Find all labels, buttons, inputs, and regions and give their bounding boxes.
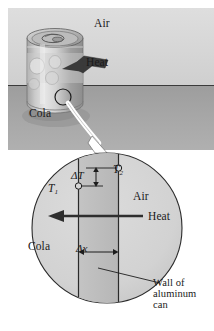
label-delta-t: ΔT [71,170,84,182]
label-delta-x: Δx [76,243,88,255]
label-t1: T1 [48,182,58,196]
label-t2: T2 [113,163,123,177]
label-t1-subscript: 1 [55,188,59,196]
label-cola-detail: Cola [28,240,50,252]
label-cola-top: Cola [29,107,51,119]
label-wall-line-3: can [153,299,196,310]
label-wall-line-1: Wall of [153,277,196,288]
can-label-mark-4 [29,79,40,90]
t1-point-marker [75,183,81,189]
physics-figure: Air Heat Cola T2 ΔT T1 Air Heat Cola Δx … [0,0,214,331]
label-heat-detail: Heat [148,210,170,222]
label-wall-line-2: aluminum [153,288,196,299]
cola-can-icon [27,29,83,114]
can-specular-highlight [40,44,45,104]
can-label-mark-2 [49,56,61,69]
label-heat-top: Heat [86,56,108,68]
label-t2-subscript: 2 [120,169,124,177]
label-wall-of-aluminum-can: Wall of aluminum can [153,277,196,310]
can-tab-rivet [53,37,63,41]
can-label-mark-3 [46,72,59,85]
label-air-top: Air [94,17,110,29]
label-air-detail: Air [133,190,149,202]
